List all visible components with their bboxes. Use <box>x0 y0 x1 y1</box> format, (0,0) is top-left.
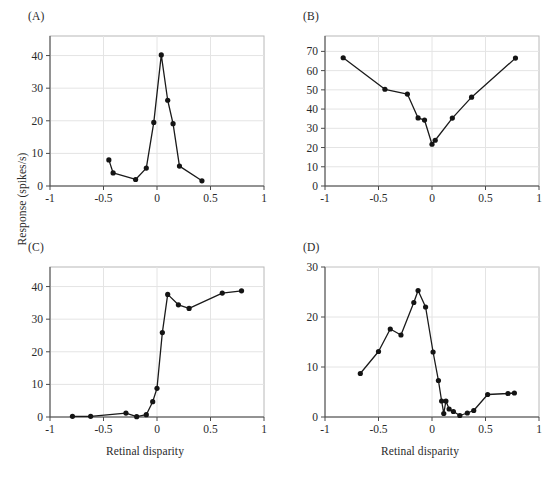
data-point <box>376 349 381 354</box>
data-point <box>160 330 165 335</box>
panel-a: (A) 010203040-1-0.500.51 <box>0 0 275 235</box>
data-point <box>111 170 116 175</box>
y-tick-label: 10 <box>32 378 44 390</box>
plot-d: 0102030-1-0.500.51 <box>295 259 545 439</box>
x-tick-label: 0 <box>154 423 160 435</box>
data-series-line <box>360 291 514 416</box>
data-point <box>239 288 244 293</box>
data-point <box>451 409 456 414</box>
y-tick-label: 30 <box>307 122 319 134</box>
data-point <box>165 292 170 297</box>
data-point <box>415 288 420 293</box>
data-point <box>422 117 427 122</box>
data-point <box>433 138 438 143</box>
x-tick-label: -0.5 <box>369 423 387 435</box>
data-point <box>415 115 420 120</box>
panel-d: (D) 0102030-1-0.500.51 Retinal disparity <box>275 235 550 479</box>
data-point <box>165 98 170 103</box>
x-tick-label: 0.5 <box>478 192 493 204</box>
x-tick-label: 1 <box>536 423 542 435</box>
data-point <box>220 290 225 295</box>
data-point <box>70 414 75 419</box>
panel-b-label: (B) <box>303 10 319 22</box>
data-point <box>429 142 434 147</box>
data-point <box>382 87 387 92</box>
x-tick-label: 0 <box>429 192 435 204</box>
y-tick-label: 0 <box>312 411 318 423</box>
x-tick-label: 0.5 <box>203 423 218 435</box>
data-point <box>88 414 93 419</box>
data-point <box>134 414 139 419</box>
data-point <box>123 410 128 415</box>
data-point <box>405 91 410 96</box>
y-tick-label: 10 <box>32 147 44 159</box>
data-point <box>144 412 149 417</box>
data-point <box>430 349 435 354</box>
y-tick-label: 0 <box>37 180 43 192</box>
y-tick-label: 20 <box>307 311 319 323</box>
x-tick-label: 1 <box>261 192 267 204</box>
data-point <box>505 391 510 396</box>
x-axis-label-c: Retinal disparity <box>20 445 270 457</box>
x-tick-label: 0.5 <box>203 192 218 204</box>
data-point <box>154 386 159 391</box>
x-tick-label: 0.5 <box>478 423 493 435</box>
y-tick-label: 70 <box>307 45 319 57</box>
y-tick-label: 20 <box>32 115 44 127</box>
x-tick-label: 1 <box>536 192 542 204</box>
panel-a-label: (A) <box>28 10 45 22</box>
data-point <box>513 56 518 61</box>
x-tick-label: -1 <box>320 192 330 204</box>
y-tick-label: 30 <box>307 261 319 273</box>
data-point <box>450 116 455 121</box>
x-tick-label: -0.5 <box>94 192 112 204</box>
y-tick-label: 0 <box>37 411 43 423</box>
panel-grid: (A) 010203040-1-0.500.51 (B) 01020304050… <box>0 0 550 479</box>
data-point <box>423 304 428 309</box>
data-series-line <box>109 55 202 181</box>
data-point <box>106 157 111 162</box>
data-point <box>151 120 156 125</box>
figure-root: Response (spikes/s) (A) 010203040-1-0.50… <box>0 0 550 479</box>
y-tick-label: 30 <box>32 82 44 94</box>
y-tick-label: 30 <box>32 313 44 325</box>
data-point <box>469 95 474 100</box>
data-point <box>170 121 175 126</box>
data-point <box>199 178 204 183</box>
data-point <box>187 306 192 311</box>
panel-b: (B) 010203040506070-1-0.500.51 <box>275 0 550 235</box>
data-point <box>465 410 470 415</box>
panel-d-label: (D) <box>303 241 320 253</box>
data-point <box>150 399 155 404</box>
x-tick-label: -0.5 <box>369 192 387 204</box>
data-point <box>133 177 138 182</box>
plot-b: 010203040506070-1-0.500.51 <box>295 28 545 208</box>
data-point <box>341 55 346 60</box>
data-point <box>388 326 393 331</box>
x-tick-label: -1 <box>45 192 55 204</box>
x-tick-label: 0 <box>154 192 160 204</box>
data-point <box>485 392 490 397</box>
y-tick-label: 40 <box>32 281 44 293</box>
data-point <box>441 411 446 416</box>
y-tick-label: 40 <box>307 103 319 115</box>
data-point <box>144 165 149 170</box>
data-point <box>176 302 181 307</box>
data-point <box>358 371 363 376</box>
y-tick-label: 10 <box>307 361 319 373</box>
x-tick-label: 0 <box>429 423 435 435</box>
x-tick-label: -1 <box>320 423 330 435</box>
x-axis-label-d: Retinal disparity <box>295 445 545 457</box>
y-tick-label: 10 <box>307 161 319 173</box>
data-point <box>443 398 448 403</box>
x-tick-label: -1 <box>45 423 55 435</box>
y-tick-label: 50 <box>307 84 319 96</box>
y-tick-label: 60 <box>307 65 319 77</box>
data-point <box>411 300 416 305</box>
data-point <box>159 52 164 57</box>
y-tick-label: 20 <box>307 142 319 154</box>
data-point <box>457 413 462 418</box>
panel-c: (C) 010203040-1-0.500.51 Retinal dispari… <box>0 235 275 479</box>
y-tick-label: 40 <box>32 50 44 62</box>
x-tick-label: 1 <box>261 423 267 435</box>
